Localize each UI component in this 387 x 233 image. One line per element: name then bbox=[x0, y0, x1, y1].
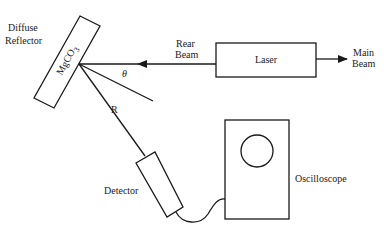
main-beam-label-line1: Main bbox=[353, 47, 374, 58]
angle-line bbox=[79, 64, 153, 101]
detector-cable bbox=[176, 199, 225, 222]
laser-reflector-diagram: Diffuse Reflector MgCO3 Rear Beam θ R La… bbox=[0, 0, 387, 233]
distance-r-label: R bbox=[111, 104, 118, 115]
rear-beam-arrow-icon bbox=[137, 60, 147, 68]
svg-text:MgCO3: MgCO3 bbox=[54, 44, 82, 79]
reflector-label-line2: Reflector bbox=[5, 35, 43, 46]
main-beam-label-line2: Beam bbox=[352, 58, 376, 69]
oscilloscope-screen-icon bbox=[241, 135, 273, 167]
rear-beam-label-line1: Rear bbox=[176, 38, 196, 49]
detector-box bbox=[136, 152, 183, 217]
rear-beam-label-line2: Beam bbox=[175, 49, 199, 60]
angle-theta-label: θ bbox=[122, 68, 127, 79]
detector-label: Detector bbox=[104, 185, 139, 196]
laser-label: Laser bbox=[255, 54, 278, 65]
reflector-label-line1: Diffuse bbox=[8, 22, 38, 33]
oscilloscope-label: Oscilloscope bbox=[295, 173, 347, 184]
reflector-material-label: MgCO3 bbox=[54, 44, 82, 79]
